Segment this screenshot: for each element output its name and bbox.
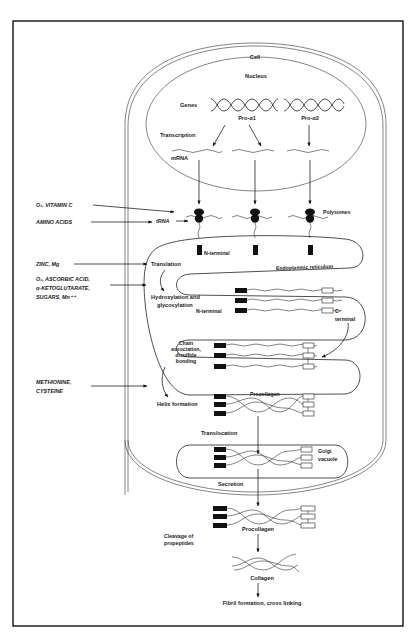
collagen-helix [232,554,299,572]
cofactor-cysteine: CYSTEINE [36,388,63,394]
nucleus-label: Nucleus [245,73,267,79]
transcription-arrow [249,125,261,146]
cofactor-o2-ascorbic: O₂, ASCORBIC ACID, [36,276,90,282]
cofactor-ketoglutarate: α-KETOGLUTARATE, [36,285,90,291]
trna-label: tRNA [156,218,170,224]
cleavage-label-2: propeptides [164,540,194,546]
n-terminal-block [253,245,258,255]
gene-pro-alpha2-icon [284,99,344,111]
helix-formation-label: Helix formation [157,401,198,407]
associated-chains [214,343,317,369]
translocation-label: Translocation [201,430,238,436]
chain-arrow [162,367,168,397]
c-terminal-label-2: terminal [335,316,356,322]
cell-membrane [125,43,386,495]
gene-pro-alpha1-label: Pro-α1 [238,115,256,121]
translation-arrow [160,270,165,291]
ribosome-icon [194,208,204,222]
chain-label-4: bonding [176,358,196,364]
collagen-label: Collagen [250,575,274,581]
golgi-label-1: Golgi [318,448,332,454]
pro-alpha-chains [235,288,342,313]
procollagen-golgi-helix [214,447,312,468]
gene-pro-alpha1-icon [211,99,278,111]
secretion-label: Secretion [218,481,244,487]
n-terminal-block [308,245,313,255]
fibril-label: Fibril formation, cross linking [223,600,302,606]
cleavage-label-1: Cleavage of [164,533,193,539]
transcription-arrow [213,125,225,146]
genes-label: Genes [180,102,197,108]
nascent-chain [198,223,200,238]
nascent-chain [309,223,311,238]
procollagen-er-helix [214,394,314,416]
procollagen-label: Procollagen [242,526,275,532]
n-terminal-block [197,245,202,255]
mrna-strands [172,150,329,153]
polysome-mrna [186,216,222,219]
hydroxylation-label-1: Hydroxylation and [151,294,200,300]
transcription-label: Transcription [160,132,196,138]
c-terminal-label-1: C- [335,308,341,314]
cofactor-amino-acids: AMINO ACIDS [35,219,72,225]
er-label: Endoplasmic reticulum [276,263,334,271]
polysomes-label: Polysomes [323,209,351,215]
gene-pro-alpha2-label: Pro-α2 [301,115,319,121]
hydroxylation-label-2: glycosylation [157,302,193,308]
endoplasmic-reticulum [144,236,365,395]
n-terminal-label-2: N-terminal [196,308,222,314]
mrna-label: mRNA [171,155,188,161]
procollagen-er-label: Procollagen [250,391,280,397]
cofactor-sugars-mn: SUGARS, Mn⁺⁺ [36,294,77,300]
collagen-synthesis-diagram: Cell Nucleus Genes Pro-α1 Pro-α2 Transcr… [0,0,419,642]
golgi-label-2: vacuole [318,456,337,462]
cofactor-zinc-mg: ZINC, Mg [35,261,60,267]
cofactor-arrow [93,205,174,212]
n-terminal-label: N-terminal [204,250,230,256]
cofactor-o2-vitamin-c: O₂, VITAMIN C [36,202,73,208]
figure-frame [13,21,403,626]
procollagen-extracellular-helix [213,506,315,528]
translation-label: Translation [151,261,181,267]
cofactor-methionine: METHIONINE, [36,379,72,385]
